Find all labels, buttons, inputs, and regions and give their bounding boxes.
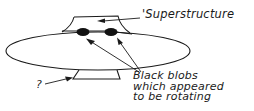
blob-left-leader-line <box>90 41 139 72</box>
question-leader-line <box>45 79 68 85</box>
superstructure-shape <box>62 16 130 33</box>
blob-right-leader-line <box>119 41 141 72</box>
blob-right-arrowhead <box>117 38 123 46</box>
black-blobs-label: Black blobs which appeared to be rotatin… <box>133 71 224 103</box>
saucer-body <box>6 32 190 70</box>
superstructure-arrowhead <box>97 19 105 24</box>
underside-structure <box>73 70 120 79</box>
superstructure-leader-line <box>103 18 140 21</box>
blob-left-arrowhead <box>86 39 95 46</box>
superstructure-label: 'Superstructure <box>142 9 234 21</box>
question-label: ? <box>36 79 42 90</box>
black-blobs-label-line3: to be rotating <box>133 92 224 103</box>
black-blob-right <box>105 28 118 36</box>
black-blob-left <box>77 28 90 36</box>
question-arrowhead <box>65 77 73 82</box>
